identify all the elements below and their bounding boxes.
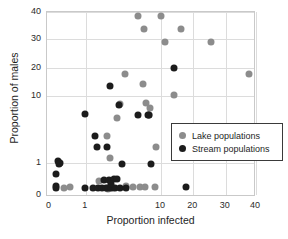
legend-label-lake-populations: Lake populations (192, 131, 260, 141)
data-point-lake (246, 71, 253, 78)
y-tick-label: 40 (31, 6, 41, 16)
y-tick-label: 1 (36, 157, 41, 167)
legend-marker-stream-icon (179, 145, 186, 152)
data-point-stream (56, 161, 63, 168)
gridline-vertical (226, 12, 227, 195)
gridline-horizontal (47, 39, 254, 40)
gridline-vertical (193, 12, 194, 195)
data-point-stream (93, 143, 100, 150)
data-point-stream (122, 184, 129, 191)
data-point-stream (146, 111, 153, 118)
data-point-lake (171, 91, 178, 98)
data-point-lake (60, 184, 67, 191)
data-point-lake (103, 133, 110, 140)
data-point-stream (147, 161, 154, 168)
x-tick-label: 40 (250, 200, 260, 210)
x-tick-label: 10 (155, 200, 165, 210)
data-point-stream (106, 82, 113, 89)
data-point-stream (118, 160, 125, 167)
data-point-lake (151, 184, 158, 191)
gridline-vertical (86, 12, 87, 195)
data-point-lake (113, 115, 120, 122)
data-point-lake (121, 71, 128, 78)
data-point-stream (53, 171, 60, 178)
legend-item-stream-populations[interactable]: Stream populations (179, 142, 276, 155)
data-point-lake (162, 38, 169, 45)
gridline-horizontal (47, 12, 254, 13)
scatter-plot-figure: 0110203040 0110203040 Proportion infecte… (0, 0, 288, 239)
y-tick-label: 10 (31, 90, 41, 100)
x-axis-label: Proportion infected (46, 214, 255, 226)
y-tick-label: 20 (31, 62, 41, 72)
data-point-lake (140, 80, 147, 87)
data-point-stream (92, 133, 99, 140)
x-tick-label: 1 (82, 200, 87, 210)
x-axis-tick-labels: 0110203040 (46, 200, 255, 214)
data-point-stream (134, 112, 141, 119)
gridline-horizontal (47, 68, 254, 69)
plot-area (46, 11, 255, 196)
x-tick-label: 20 (187, 200, 197, 210)
x-tick-label: 0 (46, 200, 51, 210)
legend-item-lake-populations[interactable]: Lake populations (179, 129, 276, 142)
data-point-stream (113, 176, 120, 183)
data-point-stream (171, 64, 178, 71)
gridline-horizontal (47, 96, 254, 97)
data-point-stream (116, 101, 123, 108)
data-point-stream (53, 184, 60, 191)
legend-label-stream-populations: Stream populations (192, 144, 270, 154)
data-point-stream (182, 184, 189, 191)
y-axis-label: Proportion of males (8, 18, 20, 178)
data-point-lake (208, 39, 215, 46)
data-point-lake (66, 184, 73, 191)
y-tick-label: 0 (36, 189, 41, 199)
legend[interactable]: Lake populations Stream populations (171, 123, 283, 161)
legend-marker-lake-icon (179, 132, 186, 139)
data-point-stream (103, 143, 110, 150)
data-point-stream (107, 181, 114, 188)
data-point-lake (152, 144, 159, 151)
data-point-lake (141, 26, 148, 33)
data-point-lake (178, 25, 185, 32)
data-point-stream (81, 184, 88, 191)
y-tick-label: 30 (31, 33, 41, 43)
gridline-vertical (256, 12, 257, 195)
data-point-lake (129, 183, 136, 190)
x-tick-label: 30 (220, 200, 230, 210)
data-point-lake (135, 12, 142, 19)
data-point-lake (157, 13, 164, 20)
data-point-lake (142, 184, 149, 191)
data-point-lake (106, 154, 113, 161)
y-axis-tick-labels: 0110203040 (0, 11, 41, 196)
data-point-stream (81, 110, 88, 117)
